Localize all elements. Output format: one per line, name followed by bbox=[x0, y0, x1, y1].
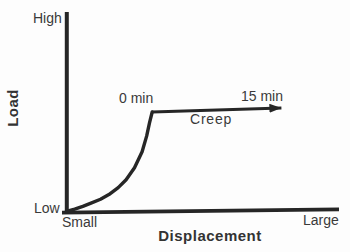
y-min-tick-label: Low bbox=[34, 201, 60, 215]
creep-end-annotation: 15 min bbox=[241, 89, 283, 103]
x-axis-title: Displacement bbox=[135, 228, 285, 243]
x-axis-line bbox=[62, 209, 339, 212]
loading-curve bbox=[67, 112, 153, 212]
creep-start-annotation: 0 min bbox=[119, 91, 153, 105]
y-max-tick-label: High bbox=[33, 11, 62, 25]
y-axis-title: Load bbox=[5, 89, 20, 127]
x-max-tick-label: Large bbox=[303, 213, 339, 227]
creep-test-figure: High Low Small Large Load Displacement 0… bbox=[0, 0, 350, 252]
x-min-tick-label: Small bbox=[62, 215, 97, 229]
creep-annotation: Creep bbox=[190, 112, 232, 126]
